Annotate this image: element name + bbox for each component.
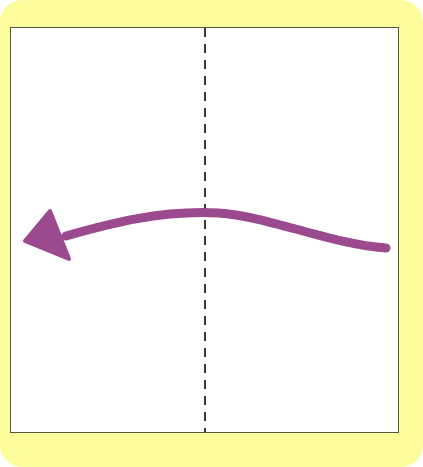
figure-canvas: [0, 0, 423, 467]
white-drawing-panel: [10, 27, 399, 433]
